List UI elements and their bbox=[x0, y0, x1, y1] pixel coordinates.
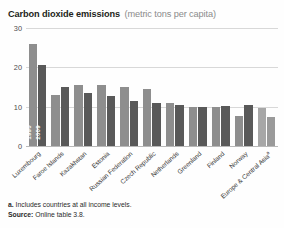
bar-2009-europe-central-asia bbox=[267, 117, 275, 147]
page-title: Carbon dioxide emissions (metric tons pe… bbox=[8, 5, 280, 18]
bar-1990-faroe-islands bbox=[51, 95, 59, 146]
source-label: Source: bbox=[8, 211, 33, 218]
bar-group bbox=[95, 28, 118, 146]
x-label-cell: Greenland bbox=[186, 149, 209, 197]
chart-figure: Carbon dioxide emissions (metric tons pe… bbox=[0, 0, 284, 228]
x-label-footnote-marker: a bbox=[265, 150, 270, 155]
source-text: Online table 3.8. bbox=[33, 211, 84, 218]
bar-group bbox=[72, 28, 95, 146]
title-subtitle: (metric tons per capita) bbox=[124, 9, 216, 19]
bar-group bbox=[141, 28, 164, 146]
bar-group bbox=[209, 28, 232, 146]
y-tick-label-20: 20 bbox=[0, 67, 22, 68]
bar-1990-kazakhstan bbox=[74, 85, 82, 146]
bar-group bbox=[49, 28, 72, 146]
bar-1990-greenland bbox=[189, 107, 197, 146]
bar-2009-faroe-islands bbox=[61, 87, 69, 146]
plot-area: 0102030 19902009 bbox=[26, 28, 278, 148]
x-axis-labels: LuxembourgFaroe IslandsKazakhstanEstonia… bbox=[26, 149, 278, 197]
gridline-0: 0 bbox=[26, 146, 278, 147]
bar-2009-netherlands bbox=[175, 105, 183, 146]
bar-2009-luxembourg: 2009 bbox=[38, 65, 46, 146]
bar-group bbox=[118, 28, 141, 146]
y-tick-label-30: 30 bbox=[0, 28, 22, 29]
footnote-text: Includes countries at all income levels. bbox=[14, 201, 132, 208]
series-label-1990: 1990 bbox=[24, 125, 32, 140]
bar-group bbox=[186, 28, 209, 146]
bar-1990-norway bbox=[235, 116, 243, 146]
bar-group bbox=[255, 28, 278, 146]
bar-1990-netherlands bbox=[166, 103, 174, 146]
footnote-a: a. Includes countries at all income leve… bbox=[8, 200, 280, 210]
bar-2009-czech-republic bbox=[152, 103, 160, 146]
bar-2009-estonia bbox=[107, 96, 115, 146]
y-tick-label-10: 10 bbox=[0, 107, 22, 108]
bar-2009-norway bbox=[244, 105, 252, 146]
bar-1990-estonia bbox=[97, 85, 105, 146]
bar-2009-kazakhstan bbox=[84, 93, 92, 146]
bar-group bbox=[232, 28, 255, 146]
bar-group: 19902009 bbox=[26, 28, 49, 146]
bar-1990-europe-central-asia bbox=[258, 108, 266, 146]
bar-1990-czech-republic bbox=[143, 89, 151, 146]
bar-2009-russian-federation bbox=[130, 101, 138, 146]
bar-2009-finland bbox=[221, 106, 229, 146]
x-label-cell: Europe & Central Asiaa bbox=[255, 149, 278, 197]
y-tick-label-0: 0 bbox=[0, 146, 22, 147]
series-label-2009: 2009 bbox=[34, 125, 42, 140]
bar-1990-finland bbox=[212, 107, 220, 146]
bar-2009-greenland bbox=[198, 107, 206, 146]
title-main: Carbon dioxide emissions bbox=[8, 9, 120, 19]
bar-1990-russian-federation bbox=[120, 87, 128, 146]
bar-groups: 19902009 bbox=[26, 28, 278, 146]
source-line: Source: Online table 3.8. bbox=[8, 210, 280, 220]
bar-group bbox=[163, 28, 186, 146]
footnotes: a. Includes countries at all income leve… bbox=[8, 200, 280, 220]
